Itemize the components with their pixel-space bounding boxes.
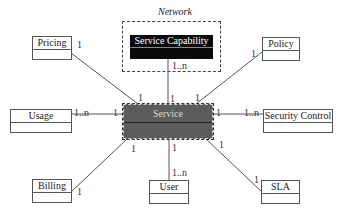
sla-multiplicity: 1 <box>254 174 259 186</box>
pricing-service-multiplicity: 1 <box>138 92 143 104</box>
service-label: Service <box>124 105 212 123</box>
billing-label: Billing <box>33 180 71 193</box>
policy-label: Policy <box>263 38 299 51</box>
user-class: User <box>149 180 189 204</box>
policy-service-multiplicity: 1 <box>195 92 200 104</box>
service-capability-label: Service Capability <box>130 35 213 48</box>
user-service-multiplicity: 1 <box>172 142 177 154</box>
user-multiplicity: 1..n <box>172 167 187 179</box>
usage-service-multiplicity: 1 <box>113 107 118 119</box>
capability-multiplicity: 1..n <box>172 60 187 72</box>
pricing-multiplicity: 1 <box>77 39 82 51</box>
security-control-label: Security Control <box>264 110 332 123</box>
user-label: User <box>150 181 188 194</box>
usage-class: Usage <box>10 109 72 133</box>
security-control-class: Security Control <box>263 109 333 133</box>
sla-class: SLA <box>261 180 300 204</box>
security-multiplicity: 1..n <box>244 107 259 119</box>
billing-connector <box>71 139 127 192</box>
policy-multiplicity: 1 <box>251 48 256 60</box>
pricing-label: Pricing <box>33 37 71 50</box>
security-service-multiplicity: 1 <box>216 107 221 119</box>
billing-multiplicity: 1 <box>77 186 82 198</box>
network-title: Network <box>158 6 192 17</box>
policy-class: Policy <box>262 37 300 61</box>
service-class: Service <box>123 104 213 139</box>
service-capability-class: Service Capability <box>130 35 213 59</box>
billing-service-multiplicity: 1 <box>131 143 136 155</box>
usage-label: Usage <box>11 110 71 123</box>
usage-multiplicity: 1..n <box>74 107 89 119</box>
sla-label: SLA <box>262 181 299 194</box>
sla-service-multiplicity: 1 <box>219 139 224 151</box>
pricing-class: Pricing <box>32 36 72 60</box>
billing-class: Billing <box>32 179 72 203</box>
